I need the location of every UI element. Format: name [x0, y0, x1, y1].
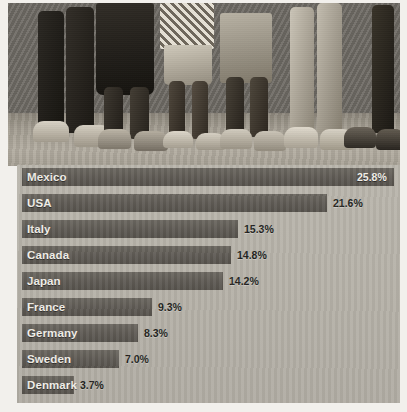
bar-label-usa: USA: [27, 197, 52, 209]
child-3-shorts: [164, 45, 212, 85]
bar-value-italy: 15.3%: [244, 223, 274, 235]
child-1-shoe-left: [33, 121, 69, 142]
bar-chart: Mexico 25.8% USA 21.6% Italy 15.3% Canad…: [17, 165, 400, 403]
bar-value-canada: 14.8%: [237, 249, 267, 261]
child-1-leg-left: [38, 11, 64, 133]
bar-value-japan: 14.2%: [229, 275, 259, 287]
bar-value-france: 9.3%: [158, 301, 182, 313]
child-4-leg-right: [250, 77, 268, 137]
child-3-patterned-shirt: [160, 3, 214, 49]
bar-label-japan: Japan: [27, 275, 61, 287]
child-5-leg-left: [290, 7, 314, 133]
child-6-boot-left: [344, 127, 376, 148]
child-6-leg-right: [372, 5, 394, 133]
child-3-sandal-left: [163, 131, 193, 148]
child-2-shoe-left: [98, 129, 131, 149]
bar-italy: [22, 220, 238, 238]
child-2-skirt: [96, 3, 154, 95]
bar-value-germany: 8.3%: [144, 327, 168, 339]
bar-value-denmark: 3.7%: [80, 379, 104, 391]
child-4-leg-left: [226, 77, 244, 137]
bar-value-sweden: 7.0%: [125, 353, 149, 365]
child-5-shoe-left: [284, 127, 318, 148]
bar-mexico: [22, 168, 394, 186]
child-5-leg-right: [317, 3, 342, 133]
page: Mexico 25.8% USA 21.6% Italy 15.3% Canad…: [0, 0, 407, 412]
bar-label-denmark: Denmark: [27, 379, 77, 391]
bar-value-mexico: 25.8%: [357, 171, 387, 183]
child-3-leg-right: [192, 81, 208, 139]
bar-label-italy: Italy: [27, 223, 51, 235]
child-4-shoe-right: [254, 131, 286, 151]
bar-value-usa: 21.6%: [333, 197, 363, 209]
bar-label-mexico: Mexico: [27, 171, 67, 183]
child-4-shorts: [220, 13, 272, 83]
bar-label-germany: Germany: [27, 327, 78, 339]
bar-usa: [22, 194, 327, 212]
child-6-boot-right: [376, 129, 400, 150]
child-4-shoe-left: [220, 129, 252, 149]
child-6-leg-left: [348, 9, 370, 133]
child-1-leg-right: [66, 7, 94, 133]
bar-label-sweden: Sweden: [27, 353, 71, 365]
photograph: [8, 3, 400, 166]
bar-label-france: France: [27, 301, 65, 313]
bar-label-canada: Canada: [27, 249, 69, 261]
